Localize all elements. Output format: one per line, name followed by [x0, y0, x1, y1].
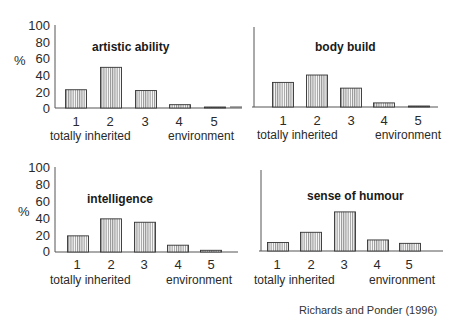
- y-tick-80: 80: [20, 178, 50, 191]
- bar: [335, 212, 356, 251]
- bar: [268, 243, 289, 252]
- bar: [301, 232, 322, 251]
- y-tick-60: 60: [20, 52, 50, 65]
- y-tick-100: 100: [20, 19, 50, 32]
- y-tick-20: 20: [20, 229, 50, 242]
- x-tick-5: 5: [408, 114, 428, 127]
- x-tick-4: 4: [374, 114, 394, 127]
- source-citation: Richards and Ponder (1996): [299, 305, 437, 316]
- bar: [101, 219, 122, 252]
- x-tick-3: 3: [341, 114, 361, 127]
- x-tick-3: 3: [135, 115, 155, 128]
- x-tick-1: 1: [267, 258, 287, 271]
- x-tick-1: 1: [67, 258, 87, 271]
- x-tick-4: 4: [367, 258, 387, 271]
- x-tick-2: 2: [301, 258, 321, 271]
- x-label-environment: environment: [168, 130, 234, 142]
- chart-title: intelligence: [87, 193, 153, 205]
- chart-body-build: [252, 27, 438, 107]
- x-tick-3: 3: [134, 258, 154, 271]
- bar: [68, 236, 89, 252]
- bar: [409, 106, 430, 107]
- x-tick-5: 5: [201, 258, 221, 271]
- chart-artistic-ability: [55, 25, 242, 108]
- x-label-environment: environment: [166, 274, 232, 286]
- y-tick-20: 20: [20, 86, 50, 99]
- bar: [205, 107, 226, 108]
- x-tick-2: 2: [101, 258, 121, 271]
- x-tick-1: 1: [273, 114, 293, 127]
- chart-intelligence: [55, 167, 238, 252]
- x-tick-3: 3: [334, 258, 354, 271]
- bar: [170, 105, 191, 108]
- y-tick-40: 40: [20, 212, 50, 225]
- y-tick-60: 60: [20, 195, 50, 208]
- x-tick-5: 5: [204, 115, 224, 128]
- x-label-totally-inherited: totally inherited: [257, 129, 338, 141]
- bar: [101, 67, 122, 108]
- bar: [273, 82, 294, 107]
- chart-sense-of-humour: [259, 170, 443, 251]
- bar: [400, 243, 421, 251]
- x-tick-4: 4: [168, 258, 188, 271]
- bar: [136, 91, 157, 108]
- x-label-environment: environment: [375, 129, 441, 141]
- x-tick-2: 2: [307, 114, 327, 127]
- bar: [168, 245, 189, 252]
- y-tick-0: 0: [20, 245, 50, 258]
- x-tick-5: 5: [399, 258, 419, 271]
- y-tick-80: 80: [20, 36, 50, 49]
- x-label-totally-inherited: totally inherited: [50, 130, 131, 142]
- chart-title: artistic ability: [92, 41, 169, 53]
- y-tick-100: 100: [20, 161, 50, 174]
- x-label-totally-inherited: totally inherited: [50, 274, 131, 286]
- x-label-environment: environment: [369, 274, 435, 286]
- x-tick-4: 4: [169, 115, 189, 128]
- bar: [341, 88, 362, 107]
- bar: [201, 250, 222, 252]
- bar: [66, 90, 87, 108]
- bar: [135, 222, 156, 252]
- bar: [374, 103, 395, 107]
- chart-title: sense of humour: [307, 190, 404, 202]
- bar: [307, 75, 328, 107]
- y-tick-40: 40: [20, 69, 50, 82]
- x-tick-2: 2: [100, 115, 120, 128]
- x-tick-1: 1: [66, 115, 86, 128]
- x-label-totally-inherited: totally inherited: [254, 274, 335, 286]
- y-tick-0: 0: [20, 102, 50, 115]
- chart-title: body build: [315, 41, 376, 53]
- bar: [368, 240, 389, 251]
